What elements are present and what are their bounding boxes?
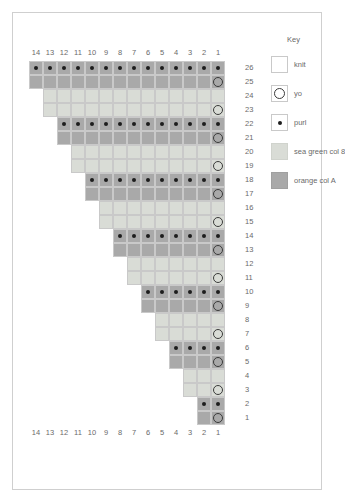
chart-cell xyxy=(127,145,141,159)
chart-cell xyxy=(183,173,197,187)
chart-cell xyxy=(99,173,113,187)
yo-circle-icon xyxy=(213,273,223,283)
chart-cell xyxy=(99,215,113,229)
chart-area: 1413121110987654321 26252423222120191817… xyxy=(29,45,239,441)
yo-circle-icon xyxy=(213,245,223,255)
column-number-top: 10 xyxy=(85,45,99,61)
chart-cell xyxy=(183,341,197,355)
purl-dot-icon xyxy=(160,234,164,238)
chart-cell xyxy=(141,257,155,271)
purl-dot-icon xyxy=(160,290,164,294)
chart-cell xyxy=(113,89,127,103)
key-item: yo xyxy=(271,85,341,102)
purl-dot-icon xyxy=(118,122,122,126)
purl-dot-icon xyxy=(62,122,66,126)
chart-cell xyxy=(141,159,155,173)
column-number-top: 14 xyxy=(29,45,43,61)
key-swatch-yo xyxy=(271,85,288,102)
chart-cell xyxy=(183,229,197,243)
chart-cell xyxy=(211,285,225,299)
purl-dot-icon xyxy=(90,178,94,182)
chart-cell xyxy=(99,131,113,145)
chart-cell xyxy=(85,117,99,131)
chart-cell xyxy=(183,383,197,397)
row-number: 17 xyxy=(245,187,263,201)
chart-cell xyxy=(197,355,211,369)
chart-cell xyxy=(211,383,225,397)
chart-cell xyxy=(169,299,183,313)
column-number-bottom: 1 xyxy=(211,425,225,441)
chart-cell xyxy=(197,173,211,187)
key-swatch-purl xyxy=(271,114,288,131)
chart-cell xyxy=(155,145,169,159)
chart-cell xyxy=(57,131,71,145)
row-number: 26 xyxy=(245,61,263,75)
column-number-bottom: 12 xyxy=(57,425,71,441)
chart-cell xyxy=(197,285,211,299)
purl-dot-icon xyxy=(174,346,178,350)
chart-cell xyxy=(211,117,225,131)
column-number-bottom: 2 xyxy=(197,425,211,441)
chart-cell xyxy=(85,159,99,173)
row-number: 14 xyxy=(245,229,263,243)
chart-cell xyxy=(211,313,225,327)
purl-dot-icon xyxy=(202,346,206,350)
key-item-label: knit xyxy=(294,56,306,73)
chart-cell xyxy=(155,299,169,313)
key-item-label: yo xyxy=(294,85,302,102)
column-number-bottom: 9 xyxy=(99,425,113,441)
purl-dot-icon xyxy=(90,122,94,126)
chart-cell xyxy=(141,61,155,75)
chart-cell xyxy=(183,201,197,215)
chart-grid: 2625242322212019181716151413121110987654… xyxy=(29,61,239,425)
key-item: sea green col 8 xyxy=(271,143,341,160)
chart-cell xyxy=(197,341,211,355)
chart-cell xyxy=(197,383,211,397)
chart-cell xyxy=(197,313,211,327)
row-number: 13 xyxy=(245,243,263,257)
chart-cell xyxy=(211,299,225,313)
chart-cell xyxy=(197,145,211,159)
chart-cell xyxy=(211,145,225,159)
chart-cell xyxy=(127,117,141,131)
chart-cell xyxy=(113,117,127,131)
chart-cell xyxy=(155,243,169,257)
column-number-bottom: 14 xyxy=(29,425,43,441)
purl-dot-icon xyxy=(160,66,164,70)
purl-dot-icon xyxy=(118,234,122,238)
chart-cell xyxy=(71,131,85,145)
chart-cell xyxy=(211,131,225,145)
purl-dot-icon xyxy=(202,234,206,238)
chart-cell xyxy=(141,145,155,159)
column-headers-top: 1413121110987654321 xyxy=(29,45,239,61)
chart-cell xyxy=(127,201,141,215)
column-number-bottom: 4 xyxy=(169,425,183,441)
yo-circle-icon xyxy=(213,189,223,199)
key-item-label: sea green col 8 xyxy=(294,143,345,160)
row-number: 1 xyxy=(245,411,263,425)
purl-dot-icon xyxy=(48,66,52,70)
chart-cell xyxy=(183,187,197,201)
chart-cell xyxy=(71,89,85,103)
purl-dot-icon xyxy=(146,178,150,182)
chart-cell xyxy=(99,103,113,117)
chart-cell xyxy=(99,89,113,103)
row-number: 9 xyxy=(245,299,263,313)
purl-dot-icon xyxy=(202,66,206,70)
chart-cell xyxy=(57,117,71,131)
column-number-bottom: 6 xyxy=(141,425,155,441)
chart-cell xyxy=(155,61,169,75)
purl-dot-icon xyxy=(174,66,178,70)
chart-cell xyxy=(197,327,211,341)
column-number-top: 3 xyxy=(183,45,197,61)
chart-cell xyxy=(141,103,155,117)
chart-cell xyxy=(169,327,183,341)
purl-dot-icon xyxy=(202,290,206,294)
chart-cell xyxy=(155,201,169,215)
chart-cell xyxy=(113,145,127,159)
chart-cell xyxy=(211,201,225,215)
purl-dot-icon xyxy=(188,234,192,238)
chart-cell xyxy=(141,187,155,201)
chart-cell xyxy=(127,103,141,117)
